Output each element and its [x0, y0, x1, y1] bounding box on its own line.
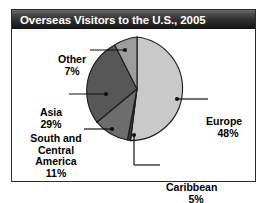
pie-slice-europe[interactable] — [131, 37, 183, 141]
pie-label-europe-name: Europe — [206, 116, 267, 128]
pie-label-sca-line3: America — [18, 156, 94, 168]
pie-label-asia-name: Asia — [26, 107, 76, 119]
pie-label-south-central-america: South and Central America 11% — [18, 133, 94, 179]
pie-label-asia: Asia 29% — [26, 107, 76, 130]
pie-plot-area: Other 7% Asia 29% South and Central Amer… — [12, 29, 255, 181]
pie-label-sca-line1: South and — [18, 133, 94, 145]
pie-label-caribbean-percent: 5% — [166, 194, 226, 195]
pie-label-caribbean: Caribbean 5% — [166, 182, 250, 194]
chart-frame: Overseas Visitors to the U.S., 2005 — [11, 9, 256, 182]
pie-label-sca-percent: 11% — [18, 168, 94, 180]
pie-label-other-percent: 7% — [44, 66, 100, 78]
chart-figure: Overseas Visitors to the U.S., 2005 — [0, 0, 267, 194]
pie-label-other-name: Other — [44, 54, 100, 66]
pie-label-europe-percent: 48% — [206, 128, 250, 140]
chart-title-bar: Overseas Visitors to the U.S., 2005 — [12, 10, 255, 29]
pie-label-other: Other 7% — [44, 54, 100, 77]
pie-label-asia-percent: 29% — [26, 119, 76, 131]
pie-label-caribbean-name: Caribbean — [166, 182, 250, 194]
pie-label-europe: Europe 48% — [206, 116, 267, 139]
chart-title: Overseas Visitors to the U.S., 2005 — [20, 14, 206, 26]
